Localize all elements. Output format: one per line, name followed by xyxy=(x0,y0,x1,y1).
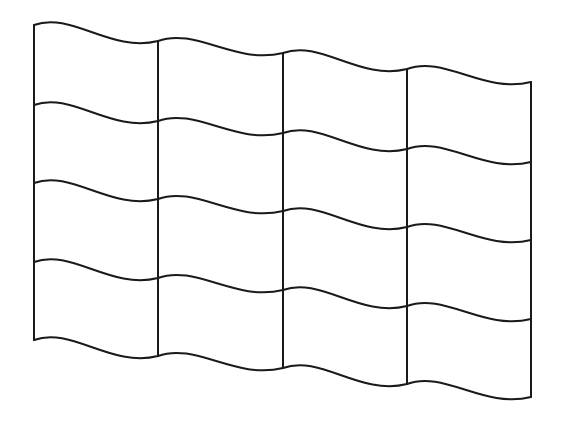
wavy-grid-drawing xyxy=(0,0,566,439)
wavy-grid-figure xyxy=(0,0,566,439)
